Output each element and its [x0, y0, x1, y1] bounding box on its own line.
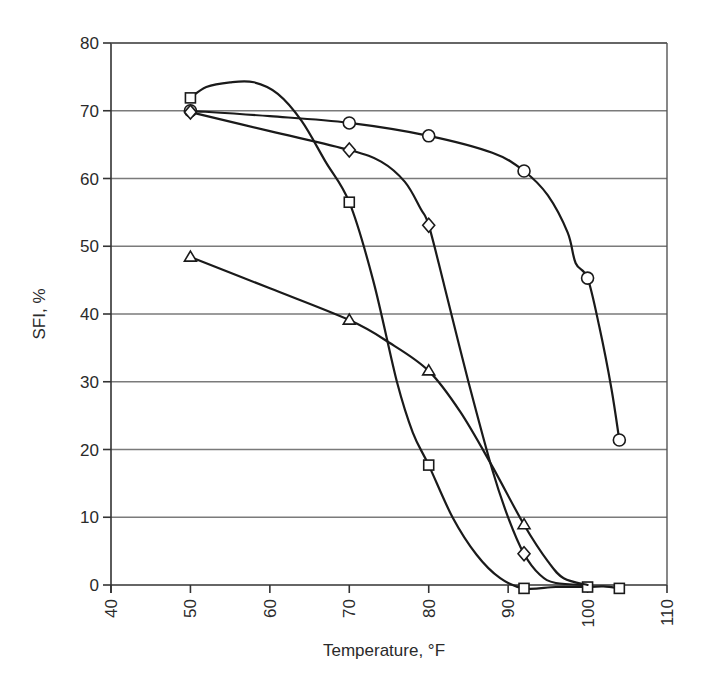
y-axis-title: SFI, %	[30, 288, 49, 339]
y-tick-label: 10	[80, 508, 99, 527]
circle-marker-icon	[423, 130, 435, 142]
square-marker-icon	[344, 197, 354, 207]
series-square-line	[190, 81, 619, 589]
y-tick-label: 50	[80, 237, 99, 256]
y-axis-ticks: 01020304050607080	[80, 34, 111, 595]
diamond-marker-icon	[343, 143, 355, 157]
diamond-marker-icon	[518, 547, 530, 561]
series-triangle-line	[190, 257, 587, 585]
y-tick-label: 0	[90, 576, 99, 595]
x-tick-label: 80	[420, 599, 439, 618]
circle-marker-icon	[613, 434, 625, 446]
x-axis-title: Temperature, °F	[323, 641, 445, 660]
y-tick-label: 40	[80, 305, 99, 324]
sfi-temperature-line-chart: 01020304050607080 405060708090100110 Tem…	[0, 0, 711, 685]
series-triangle	[184, 251, 587, 585]
x-tick-label: 70	[340, 599, 359, 618]
chart-container: 01020304050607080 405060708090100110 Tem…	[0, 0, 711, 685]
y-tick-label: 20	[80, 441, 99, 460]
series-circle	[184, 105, 625, 446]
y-tick-label: 30	[80, 373, 99, 392]
y-tick-label: 70	[80, 102, 99, 121]
x-tick-label: 50	[181, 599, 200, 618]
triangle-marker-icon	[184, 251, 196, 261]
series-circle-line	[190, 111, 619, 440]
circle-marker-icon	[582, 272, 594, 284]
x-tick-label: 40	[102, 599, 121, 618]
plot-frame	[111, 43, 667, 593]
x-tick-label: 100	[579, 599, 598, 627]
square-marker-icon	[185, 93, 195, 103]
circle-marker-icon	[518, 165, 530, 177]
triangle-marker-icon	[518, 519, 530, 529]
y-tick-label: 80	[80, 34, 99, 53]
square-marker-icon	[614, 583, 624, 593]
diamond-marker-icon	[423, 218, 435, 232]
square-marker-icon	[519, 583, 529, 593]
x-tick-label: 90	[499, 599, 518, 618]
x-tick-label: 110	[658, 599, 677, 626]
x-tick-label: 60	[261, 599, 280, 618]
circle-marker-icon	[343, 117, 355, 129]
y-tick-label: 60	[80, 170, 99, 189]
square-marker-icon	[424, 460, 434, 470]
